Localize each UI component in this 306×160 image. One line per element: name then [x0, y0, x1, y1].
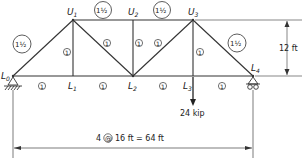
node-U2: U2: [128, 7, 139, 18]
span-dimension-suffix: 16 ft = 64 ft: [115, 134, 164, 143]
node-L0: L0: [1, 71, 10, 82]
truss-diagram: 12 ft 4 @ 16 ft = 64 ft 24 kip L0 L1 L2 …: [0, 0, 306, 160]
tag-U3L4: 1½: [230, 40, 241, 48]
tag-U3L3: 1: [198, 49, 202, 56]
node-L1: L1: [68, 81, 77, 92]
node-U1: U1: [67, 7, 77, 18]
tag-U1L1: 1: [65, 49, 69, 56]
member-L2U3: [133, 20, 193, 76]
tag-U2L2: 1: [137, 40, 141, 47]
node-L3: L3: [183, 81, 192, 92]
tag-L2L3: 1: [161, 83, 165, 90]
height-dimension-label: 12 ft: [279, 44, 298, 53]
tag-L2U3: 1: [156, 40, 160, 47]
node-U3: U3: [188, 7, 199, 18]
tag-U1L2: 1: [105, 40, 109, 47]
tag-U2U3: 1½: [155, 7, 166, 15]
tag-L3L4: 1: [220, 83, 224, 90]
member-U1L2: [73, 20, 133, 76]
load-label: 24 kip: [180, 109, 205, 118]
tag-L1L2: 1: [101, 83, 105, 90]
node-L2: L2: [128, 81, 137, 92]
node-L4: L4: [251, 63, 260, 74]
tag-U1U2: 1½: [96, 7, 107, 15]
tag-L0U1: 1½: [15, 41, 26, 49]
span-dimension-prefix: 4: [96, 134, 101, 143]
roller-support: [246, 77, 260, 89]
tag-L0L1: 1: [40, 83, 44, 90]
span-dimension-at: @: [105, 135, 112, 143]
